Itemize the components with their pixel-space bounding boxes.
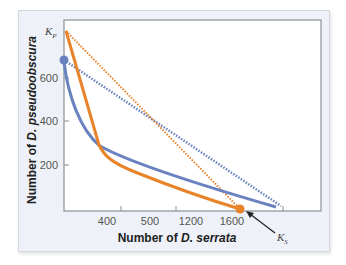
x-tick-400: 400 [98, 215, 116, 227]
chart: 600 400 200 KP 400 500 1200 1600 Number … [0, 0, 346, 265]
x-tick-1200: 1200 [179, 215, 203, 227]
arrow-icon [246, 211, 254, 218]
y-tick-200: 200 [40, 159, 58, 171]
y-axis-title: Number of D. pseudoobscura [25, 36, 39, 204]
y-tick-400: 400 [40, 115, 58, 127]
kp-label: KP [44, 25, 57, 40]
ks-marker [236, 205, 245, 214]
x-tick-500: 500 [141, 215, 159, 227]
x-axis-title: Number of D. serrata [118, 231, 237, 245]
y-tick-600: 600 [40, 72, 58, 84]
ks-label: KS [276, 231, 288, 246]
x-tick-1600: 1600 [220, 215, 244, 227]
ks-annotation: KS [246, 211, 288, 246]
kp-marker [60, 56, 69, 65]
